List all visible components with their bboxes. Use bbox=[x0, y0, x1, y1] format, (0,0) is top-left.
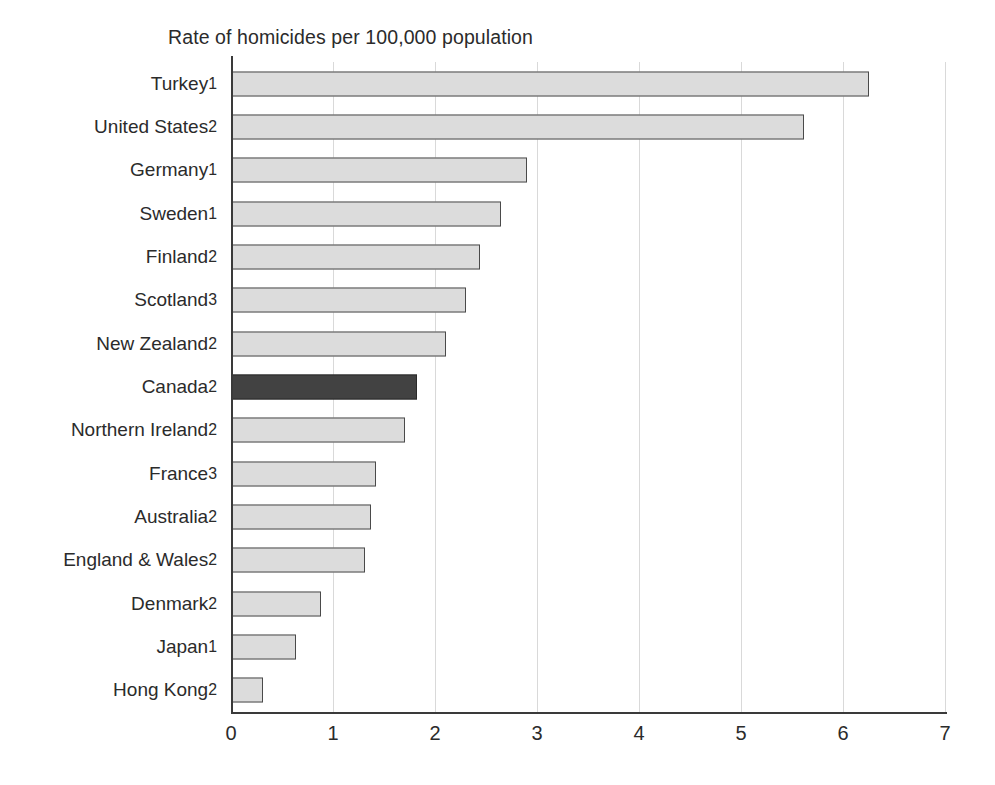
y-axis-line bbox=[231, 56, 233, 714]
bar-row bbox=[231, 235, 945, 278]
category-label-text: Northern Ireland bbox=[71, 419, 208, 441]
category-label: Sweden1 bbox=[0, 192, 224, 235]
bar-row bbox=[231, 149, 945, 192]
x-tick-label: 6 bbox=[823, 722, 863, 745]
category-label-text: New Zealand bbox=[96, 333, 208, 355]
gridline bbox=[945, 62, 946, 712]
bar[interactable] bbox=[231, 548, 365, 573]
category-label: Japan1 bbox=[0, 625, 224, 668]
bar-row bbox=[231, 625, 945, 668]
bar-row bbox=[231, 365, 945, 408]
bar[interactable] bbox=[231, 71, 869, 96]
category-label-text: Hong Kong bbox=[113, 679, 208, 701]
category-label: France3 bbox=[0, 452, 224, 495]
bar[interactable] bbox=[231, 244, 480, 269]
x-tick-label: 1 bbox=[313, 722, 353, 745]
bar[interactable] bbox=[231, 591, 321, 616]
bar[interactable] bbox=[231, 634, 296, 659]
category-axis-labels: Turkey1United States2Germany1Sweden1Finl… bbox=[0, 62, 224, 712]
bar-row bbox=[231, 452, 945, 495]
category-label: United States2 bbox=[0, 105, 224, 148]
category-label-text: Japan bbox=[156, 636, 208, 658]
bar-row bbox=[231, 105, 945, 148]
category-label-text: Sweden bbox=[140, 203, 209, 225]
category-label: Australia2 bbox=[0, 495, 224, 538]
footnote-marker: 2 bbox=[208, 551, 217, 569]
footnote-marker: 2 bbox=[208, 681, 217, 699]
x-axis-line bbox=[231, 712, 947, 714]
category-label: England & Wales2 bbox=[0, 539, 224, 582]
bar-chart: Rate of homicides per 100,000 population… bbox=[0, 0, 995, 785]
bar[interactable] bbox=[231, 418, 405, 443]
category-label: Canada2 bbox=[0, 365, 224, 408]
bar[interactable] bbox=[231, 201, 501, 226]
footnote-marker: 2 bbox=[208, 378, 217, 396]
footnote-marker: 1 bbox=[208, 205, 217, 223]
bar-row bbox=[231, 582, 945, 625]
bar[interactable] bbox=[231, 158, 527, 183]
footnote-marker: 3 bbox=[208, 465, 217, 483]
bar[interactable] bbox=[231, 461, 376, 486]
bar-row bbox=[231, 279, 945, 322]
plot-area bbox=[231, 62, 945, 712]
x-tick-label: 3 bbox=[517, 722, 557, 745]
category-label-text: Canada bbox=[142, 376, 209, 398]
category-label-text: Turkey bbox=[151, 73, 208, 95]
category-label: Germany1 bbox=[0, 149, 224, 192]
category-label: Scotland3 bbox=[0, 279, 224, 322]
footnote-marker: 1 bbox=[208, 638, 217, 656]
footnote-marker: 2 bbox=[208, 421, 217, 439]
footnote-marker: 1 bbox=[208, 161, 217, 179]
x-tick-label: 2 bbox=[415, 722, 455, 745]
category-label-text: Australia bbox=[134, 506, 208, 528]
chart-title: Rate of homicides per 100,000 population bbox=[168, 26, 533, 49]
category-label: Hong Kong2 bbox=[0, 669, 224, 712]
category-label: Turkey1 bbox=[0, 62, 224, 105]
bar-row bbox=[231, 495, 945, 538]
bar[interactable] bbox=[231, 504, 371, 529]
footnote-marker: 2 bbox=[208, 595, 217, 613]
x-tick-label: 4 bbox=[619, 722, 659, 745]
bar[interactable] bbox=[231, 288, 466, 313]
footnote-marker: 1 bbox=[208, 75, 217, 93]
category-label: Denmark2 bbox=[0, 582, 224, 625]
footnote-marker: 3 bbox=[208, 291, 217, 309]
footnote-marker: 2 bbox=[208, 335, 217, 353]
category-label: Northern Ireland2 bbox=[0, 409, 224, 452]
footnote-marker: 2 bbox=[208, 118, 217, 136]
footnote-marker: 2 bbox=[208, 248, 217, 266]
bar-row bbox=[231, 322, 945, 365]
bar-row bbox=[231, 192, 945, 235]
category-label-text: Germany bbox=[130, 159, 208, 181]
bar[interactable] bbox=[231, 678, 263, 703]
category-label-text: United States bbox=[94, 116, 208, 138]
x-tick-label: 0 bbox=[211, 722, 251, 745]
category-label: Finland2 bbox=[0, 235, 224, 278]
bar[interactable] bbox=[231, 331, 446, 356]
bar-row bbox=[231, 539, 945, 582]
bar[interactable] bbox=[231, 114, 804, 139]
category-label-text: France bbox=[149, 463, 208, 485]
category-label-text: England & Wales bbox=[63, 549, 208, 571]
x-tick-label: 5 bbox=[721, 722, 761, 745]
category-label-text: Scotland bbox=[134, 289, 208, 311]
x-tick-label: 7 bbox=[925, 722, 965, 745]
category-label-text: Finland bbox=[146, 246, 208, 268]
category-label-text: Denmark bbox=[131, 593, 208, 615]
bar[interactable] bbox=[231, 374, 417, 399]
footnote-marker: 2 bbox=[208, 508, 217, 526]
bar-row bbox=[231, 669, 945, 712]
bar-row bbox=[231, 62, 945, 105]
category-label: New Zealand2 bbox=[0, 322, 224, 365]
bar-row bbox=[231, 409, 945, 452]
